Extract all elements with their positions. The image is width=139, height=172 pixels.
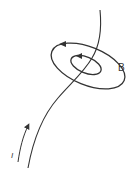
inner-loop-arrow-icon — [76, 53, 82, 59]
outer-loop-arrow-icon — [59, 41, 66, 47]
current-arrow — [18, 126, 28, 162]
diagram-canvas: B I — [0, 0, 139, 172]
field-label-b: B — [118, 62, 125, 73]
wire — [28, 10, 101, 168]
inner-field-loop — [68, 52, 104, 79]
current-label-i: I — [11, 151, 14, 160]
